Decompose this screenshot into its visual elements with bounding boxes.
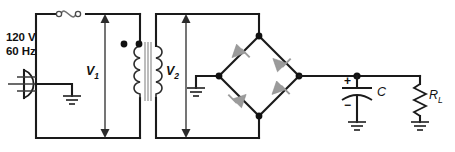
primary-voltage-label: V1 — [86, 65, 99, 80]
source-frequency-label: 60 Hz — [6, 45, 36, 57]
bridge-arm-bottom-left — [219, 76, 259, 116]
secondary-voltage-arrow — [182, 14, 191, 138]
fuse-terminal-left — [56, 11, 61, 16]
secondary-voltage-subscript: 2 — [174, 71, 179, 81]
secondary-voltage-label: V2 — [166, 65, 179, 80]
diode-bottom-left — [228, 94, 246, 107]
v2-arrow-head-bottom — [182, 129, 191, 138]
output-section-group — [299, 72, 429, 130]
v1-arrow-head-bottom — [101, 129, 110, 138]
capacitor-label: C — [377, 86, 386, 99]
ground-primary — [63, 96, 81, 104]
secondary-top-wire — [156, 14, 259, 46]
load-resistor-label: RL — [429, 89, 443, 104]
primary-bottom-wire — [36, 84, 140, 138]
load-resistor-subscript: L — [438, 95, 443, 105]
source-voltage-label: 120 V — [6, 31, 36, 43]
ground-secondary — [187, 88, 205, 96]
fuse-curve — [61, 11, 76, 17]
transformer-symbol — [121, 41, 162, 101]
load-resistor-zigzag — [414, 84, 426, 116]
capacitor-plus-sign: + — [344, 75, 351, 88]
secondary-ground-wire — [196, 76, 219, 88]
ground-capacitor — [348, 122, 366, 130]
fuse-symbol — [56, 11, 80, 17]
ac-plug-symbol — [8, 70, 36, 98]
primary-top-left-wire — [36, 14, 57, 84]
capacitor-minus-sign: − — [344, 99, 351, 112]
bridge-arm-bottom-right — [259, 76, 299, 116]
circuit-schematic-canvas — [0, 0, 455, 152]
transformer-secondary-coil — [156, 46, 162, 98]
bridge-rectifier-group — [216, 14, 303, 138]
v2-arrow-head-top — [182, 14, 191, 23]
bridge-node-top — [256, 33, 263, 40]
transformer-polarity-dot-secondary — [136, 41, 143, 48]
transformer-polarity-dot-primary — [121, 41, 128, 48]
load-resistor-symbol: R — [429, 88, 438, 102]
v1-arrow-head-top — [101, 14, 110, 23]
ground-load — [411, 122, 429, 130]
circuit-diagram-figure: 120 V 60 Hz V1 V2 + − C RL — [0, 0, 455, 152]
primary-ground-wire — [36, 84, 72, 96]
bridge-arm-top-left — [219, 36, 259, 76]
primary-voltage-subscript: 1 — [94, 71, 99, 81]
primary-voltage-arrow — [101, 14, 110, 138]
secondary-bottom-wire — [156, 98, 259, 138]
bridge-node-left — [216, 73, 223, 80]
transformer-primary-coil — [134, 46, 140, 98]
fuse-terminal-right — [75, 11, 80, 16]
bridge-node-bottom — [256, 113, 263, 120]
